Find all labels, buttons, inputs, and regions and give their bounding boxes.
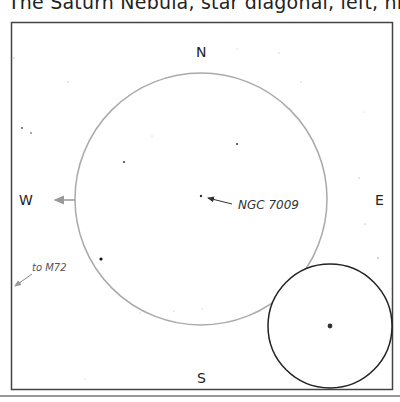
m72-arrow [15, 274, 32, 286]
compass-west: W [19, 192, 33, 208]
m72-label: to M72 [32, 262, 67, 273]
compass-south: S [197, 370, 206, 386]
compass-east: E [375, 192, 384, 208]
compass-north: N [196, 44, 206, 60]
star-chart [0, 0, 400, 402]
ngc7009-dot [200, 195, 202, 197]
ngc7009-label: NGC 7009 [238, 198, 299, 212]
ngc7009-arrow [208, 198, 232, 204]
inset-nebula-dot [328, 324, 333, 329]
